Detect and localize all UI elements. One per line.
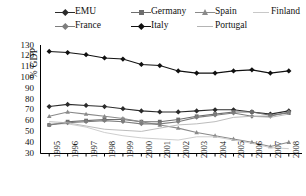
data-point bbox=[249, 67, 254, 72]
legend-marker-diamond-icon bbox=[55, 20, 75, 32]
data-point bbox=[65, 102, 70, 107]
y-tick-30: 30 bbox=[25, 149, 34, 158]
legend-label: Spain bbox=[215, 7, 237, 17]
data-point bbox=[157, 109, 162, 114]
legend-item-france[interactable]: France bbox=[55, 19, 101, 33]
chart-legend: EMUGermanySpainFinlandFranceItalyPortuga… bbox=[55, 5, 303, 35]
axis-lines bbox=[41, 45, 303, 154]
y-tick-130: 130 bbox=[21, 41, 35, 50]
data-point bbox=[120, 56, 125, 61]
x-tick-2008: 2008 bbox=[292, 141, 301, 158]
x-tick-2005: 2005 bbox=[237, 141, 246, 158]
legend-row: EMUGermanySpainFinland bbox=[55, 5, 303, 19]
legend-marker-none-icon bbox=[251, 6, 271, 18]
plot-area bbox=[40, 45, 298, 153]
legend-marker-diamond-icon bbox=[55, 6, 75, 18]
legend-item-germany[interactable]: Germany bbox=[131, 5, 186, 19]
x-axis-tick-labels: 1995199619971998199920002001200220032004… bbox=[40, 156, 298, 196]
legend-item-finland[interactable]: Finland bbox=[251, 5, 300, 19]
legend-marker-square-icon bbox=[131, 6, 151, 18]
data-point bbox=[102, 104, 107, 109]
data-point bbox=[139, 62, 144, 67]
y-tick-70: 70 bbox=[25, 105, 34, 114]
y-tick-90: 90 bbox=[25, 84, 34, 93]
series-emu bbox=[47, 102, 292, 117]
y-tick-40: 40 bbox=[25, 138, 34, 147]
series-germany bbox=[47, 110, 290, 127]
y-tick-50: 50 bbox=[25, 127, 34, 136]
chart-figure: EMUGermanySpainFinlandFranceItalyPortuga… bbox=[0, 0, 306, 196]
legend-marker-none-icon bbox=[195, 20, 215, 32]
data-point bbox=[176, 68, 181, 73]
x-tick-2003: 2003 bbox=[200, 141, 209, 158]
x-tick-2006: 2006 bbox=[255, 141, 264, 158]
y-tick-100: 100 bbox=[21, 73, 35, 82]
data-point bbox=[250, 110, 254, 114]
data-point bbox=[47, 104, 52, 109]
data-point bbox=[286, 68, 291, 73]
legend-label: Italy bbox=[151, 21, 168, 31]
legend-item-spain[interactable]: Spain bbox=[195, 5, 237, 19]
data-point bbox=[157, 63, 162, 68]
y-tick-120: 120 bbox=[21, 51, 35, 60]
x-tick-2001: 2001 bbox=[163, 141, 172, 158]
data-point bbox=[268, 70, 273, 75]
data-point bbox=[139, 108, 144, 113]
data-point bbox=[194, 108, 199, 113]
data-point bbox=[212, 70, 217, 75]
legend-item-italy[interactable]: Italy bbox=[131, 19, 168, 33]
data-point bbox=[83, 103, 88, 108]
data-point bbox=[120, 106, 125, 111]
x-tick-1995: 1995 bbox=[53, 141, 62, 158]
x-tick-2004: 2004 bbox=[219, 141, 228, 158]
y-tick-60: 60 bbox=[25, 116, 34, 125]
x-tick-1998: 1998 bbox=[108, 141, 117, 158]
y-tick-110: 110 bbox=[21, 62, 34, 71]
legend-item-portugal[interactable]: Portugal bbox=[195, 19, 247, 33]
data-point bbox=[212, 107, 217, 112]
y-tick-80: 80 bbox=[25, 95, 34, 104]
legend-label: Finland bbox=[271, 7, 300, 17]
legend-label: Germany bbox=[151, 7, 186, 17]
x-tick-1996: 1996 bbox=[71, 141, 80, 158]
data-point bbox=[176, 109, 181, 114]
legend-item-emu[interactable]: EMU bbox=[55, 5, 96, 19]
legend-row: FranceItalyPortugal bbox=[55, 19, 303, 33]
legend-label: France bbox=[75, 21, 101, 31]
data-point bbox=[83, 52, 88, 57]
legend-label: Portugal bbox=[215, 21, 247, 31]
series-italy bbox=[47, 49, 292, 76]
x-tick-1997: 1997 bbox=[90, 141, 99, 158]
legend-label: EMU bbox=[75, 7, 96, 17]
x-tick-2000: 2000 bbox=[145, 141, 154, 158]
y-axis-tick-labels: 13012011010090807060504030 bbox=[14, 41, 34, 157]
data-point bbox=[231, 68, 236, 73]
data-point bbox=[194, 70, 199, 75]
data-point bbox=[65, 50, 70, 55]
x-tick-1999: 1999 bbox=[126, 141, 135, 158]
data-point bbox=[47, 49, 52, 54]
legend-marker-diamond-icon bbox=[131, 20, 151, 32]
x-tick-2002: 2002 bbox=[182, 141, 191, 158]
legend-marker-triangle-icon bbox=[195, 6, 215, 18]
x-tick-2007: 2007 bbox=[274, 141, 283, 158]
data-point bbox=[102, 55, 107, 60]
